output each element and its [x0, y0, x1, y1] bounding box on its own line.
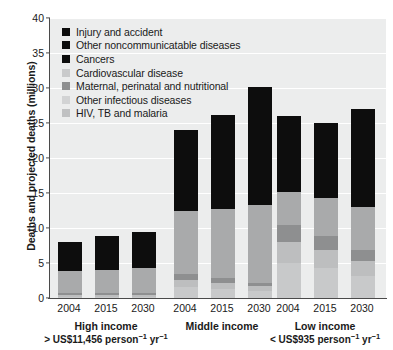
bar-segment — [314, 123, 338, 144]
bar-stack[interactable] — [351, 109, 375, 298]
legend-swatch-icon — [62, 41, 70, 49]
bar-segment — [351, 250, 375, 261]
legend-item[interactable]: Injury and accident — [62, 25, 240, 39]
bar-segment — [277, 116, 301, 141]
legend-item[interactable]: Cancers — [62, 52, 240, 66]
legend-swatch-icon — [62, 109, 70, 117]
legend-swatch-icon — [62, 69, 70, 77]
bar-stack[interactable] — [211, 115, 235, 298]
y-axis-tick-mark — [46, 262, 50, 263]
bar-segment — [58, 257, 82, 272]
x-axis-line — [48, 298, 387, 299]
bar-segment — [95, 242, 119, 254]
bar-segment — [211, 289, 235, 298]
y-axis-tick-mark — [46, 227, 50, 228]
y-axis-tick-mark — [46, 122, 50, 123]
bar-segment — [351, 141, 375, 191]
group-name: Low income — [295, 320, 356, 332]
bar-segment — [248, 112, 272, 168]
legend-item[interactable]: Other infectious diseases — [62, 93, 240, 107]
bar-segment — [174, 280, 198, 287]
bar-segment — [248, 291, 272, 298]
group-income-range: > US$11,456 person−1 yr−1 — [26, 333, 186, 346]
x-axis-group-caption: Low income< US$935 person−1 yr−1 — [245, 320, 393, 346]
bar-segment — [211, 180, 235, 209]
bar-segment — [314, 185, 338, 198]
bar-stack[interactable] — [95, 236, 119, 298]
bar-segment — [277, 180, 301, 191]
bar-segment — [277, 242, 301, 263]
y-axis-tick-mark — [46, 192, 50, 193]
bar-stack[interactable] — [132, 232, 156, 298]
bar-segment — [248, 87, 272, 112]
legend-swatch-icon — [62, 28, 70, 36]
bar-segment — [314, 144, 338, 185]
x-axis-year-label: 2030 — [342, 302, 382, 314]
bar-segment — [351, 276, 375, 298]
legend-label: Cardiovascular disease — [76, 67, 183, 79]
legend-label: Maternal, perinatal and nutritional — [76, 80, 228, 92]
bar-stack[interactable] — [174, 130, 198, 298]
y-axis-tick-mark — [46, 17, 50, 18]
bar-stack[interactable] — [277, 116, 301, 298]
bar-segment — [58, 271, 82, 293]
bar-stack[interactable] — [248, 87, 272, 298]
bar-segment — [211, 136, 235, 180]
bar-stack[interactable] — [314, 123, 338, 298]
bar-segment — [351, 261, 375, 276]
x-axis-year-label: 2004 — [268, 302, 308, 314]
y-axis-tick-mark — [46, 157, 50, 158]
bar-segment — [277, 263, 301, 298]
bar-segment — [132, 268, 156, 294]
legend-item[interactable]: Cardiovascular disease — [62, 66, 240, 80]
bar-segment — [174, 211, 198, 275]
bar-segment — [174, 150, 198, 186]
bar-segment — [314, 236, 338, 250]
bar-segment — [174, 185, 198, 210]
bar-segment — [351, 109, 375, 141]
bar-segment — [248, 168, 272, 205]
x-axis-year-label: 2015 — [86, 302, 126, 314]
legend-label: Injury and accident — [76, 26, 162, 38]
bar-segment — [314, 268, 338, 298]
legend-label: Cancers — [76, 53, 114, 65]
group-income-range: < US$935 person−1 yr−1 — [245, 333, 393, 346]
legend-swatch-icon — [62, 96, 70, 104]
legend-item[interactable]: Maternal, perinatal and nutritional — [62, 79, 240, 93]
legend-swatch-icon — [62, 82, 70, 90]
bar-segment — [211, 209, 235, 278]
bar-segment — [132, 237, 156, 250]
legend-label: Other infectious diseases — [76, 94, 191, 106]
bar-segment — [174, 287, 198, 298]
bar-segment — [277, 141, 301, 180]
bar-segment — [58, 246, 82, 257]
bar-segment — [248, 205, 272, 283]
bar-segment — [277, 225, 301, 242]
bar-segment — [314, 198, 338, 236]
bar-segment — [351, 207, 375, 250]
x-axis-year-label: 2004 — [49, 302, 89, 314]
legend-swatch-icon — [62, 55, 70, 63]
x-axis-year-label: 2015 — [305, 302, 345, 314]
group-name: High income — [74, 320, 137, 332]
bar-stack[interactable] — [58, 242, 82, 298]
bar-segment — [132, 250, 156, 268]
legend-label: Other noncommunicatable diseases — [76, 39, 240, 51]
x-axis-year-label: 2030 — [123, 302, 163, 314]
chart-figure: Deaths and projected deaths (millions) 0… — [0, 0, 393, 350]
x-axis-year-label: 2015 — [202, 302, 242, 314]
bar-segment — [95, 270, 119, 293]
bar-segment — [277, 192, 301, 226]
legend-item[interactable]: Other noncommunicatable diseases — [62, 39, 240, 53]
bar-segment — [95, 254, 119, 270]
chart-legend: Injury and accidentOther noncommunicatab… — [62, 25, 240, 120]
legend-label: HIV, TB and malaria — [76, 107, 167, 119]
plot-area: 0510152025303540 Injury and accidentOthe… — [49, 18, 386, 298]
bar-segment — [314, 250, 338, 268]
legend-item[interactable]: HIV, TB and malaria — [62, 107, 240, 121]
y-axis-tick-mark — [46, 87, 50, 88]
y-axis-tick-mark — [46, 52, 50, 53]
gridline — [50, 18, 386, 19]
bar-segment — [351, 192, 375, 207]
x-axis-year-label: 2004 — [165, 302, 205, 314]
